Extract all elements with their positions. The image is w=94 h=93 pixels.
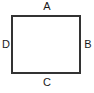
rectangle-shape — [12, 16, 80, 73]
bottom-edge-label: C — [0, 77, 94, 88]
top-edge-label: A — [0, 1, 94, 12]
right-edge-label: B — [83, 39, 93, 50]
left-edge-label: D — [1, 39, 11, 50]
rectangle-diagram: A B C D — [0, 0, 94, 93]
